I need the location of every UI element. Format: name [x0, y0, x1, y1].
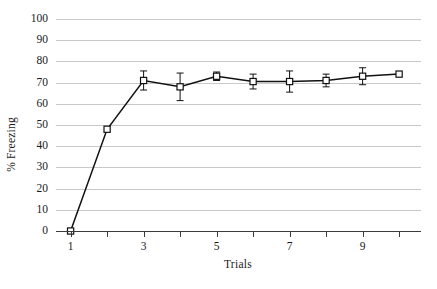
x-axis-tick-labels: 13579	[56, 232, 421, 258]
data-point-marker	[287, 78, 293, 84]
data-point-marker	[323, 77, 329, 83]
x-tick-mark	[326, 232, 327, 237]
data-series	[56, 19, 421, 231]
y-tick-label: 0	[18, 225, 48, 237]
x-tick-mark	[290, 232, 291, 237]
freezing-trials-chart: % Freezing 0102030405060708090100 13579 …	[0, 0, 437, 289]
x-tick-mark	[217, 232, 218, 237]
y-tick-label: 90	[18, 34, 48, 46]
data-point-marker	[177, 84, 183, 90]
y-tick-label: 40	[18, 140, 48, 152]
x-tick-mark	[253, 232, 254, 237]
data-point-marker	[214, 73, 220, 79]
x-tick-mark	[363, 232, 364, 237]
y-tick-label: 20	[18, 183, 48, 195]
y-tick-label: 10	[18, 204, 48, 216]
y-tick-label: 30	[18, 162, 48, 174]
data-point-marker	[141, 77, 147, 83]
x-tick-mark	[71, 232, 72, 237]
x-tick-label: 7	[278, 240, 302, 252]
data-point-marker	[104, 126, 110, 132]
x-tick-label: 3	[132, 240, 156, 252]
x-tick-mark	[180, 232, 181, 237]
x-tick-label: 5	[205, 240, 229, 252]
x-tick-mark	[144, 232, 145, 237]
y-tick-label: 80	[18, 56, 48, 68]
x-tick-label: 1	[59, 240, 83, 252]
x-tick-mark	[107, 232, 108, 237]
y-tick-label: 100	[18, 13, 48, 25]
series-line	[71, 74, 400, 231]
y-axis-tick-labels: 0102030405060708090100	[18, 19, 48, 231]
data-point-markers	[68, 71, 403, 234]
data-point-marker	[396, 71, 402, 77]
x-tick-mark	[399, 232, 400, 237]
data-point-marker	[360, 73, 366, 79]
x-tick-label: 9	[351, 240, 375, 252]
plot-area	[56, 19, 421, 231]
y-tick-label: 50	[18, 119, 48, 131]
data-point-marker	[250, 78, 256, 84]
y-tick-label: 60	[18, 98, 48, 110]
x-axis-title: Trials	[55, 258, 421, 270]
y-tick-label: 70	[18, 77, 48, 89]
